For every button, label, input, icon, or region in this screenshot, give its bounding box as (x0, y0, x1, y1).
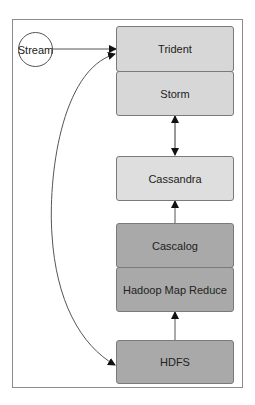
cascalog-node: Cascalog (116, 223, 234, 268)
hdfs-label: HDFS (160, 356, 190, 368)
stream-label: Stream (18, 44, 53, 56)
trident-hdfs-curved-arrow (51, 54, 115, 365)
storm-node: Storm (116, 71, 234, 116)
stream-source-node: Stream (18, 32, 53, 67)
hdfs-node: HDFS (116, 340, 234, 384)
trident-node: Trident (116, 26, 234, 72)
hadoop-map-reduce-label: Hadoop Map Reduce (123, 284, 227, 296)
cascalog-label: Cascalog (152, 240, 198, 252)
trident-label: Trident (158, 43, 192, 55)
cassandra-label: Cassandra (148, 173, 201, 185)
cassandra-node: Cassandra (116, 156, 234, 201)
storm-label: Storm (160, 88, 189, 100)
hadoop-map-reduce-node: Hadoop Map Reduce (116, 267, 234, 312)
